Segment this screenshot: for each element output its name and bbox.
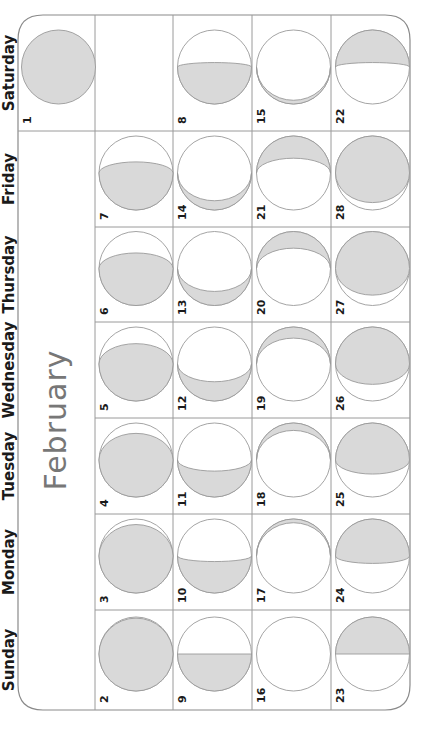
day-number: 13 — [176, 300, 189, 315]
day-cell-15: 15 — [255, 30, 331, 124]
day-number: 4 — [98, 499, 111, 507]
day-number: 5 — [98, 403, 111, 411]
day-number: 1 — [21, 116, 34, 124]
weekday-label-saturday: Saturday — [0, 35, 18, 112]
day-number: 24 — [334, 587, 347, 603]
day-cell-5: 5 — [98, 327, 173, 411]
weekday-label-friday: Friday — [0, 153, 18, 205]
day-cell-26: 26 — [334, 327, 410, 411]
day-number: 19 — [255, 396, 268, 411]
day-cell-13: 13 — [176, 232, 252, 316]
day-cell-16: 16 — [255, 617, 331, 703]
moon-shade-icon — [99, 525, 173, 593]
day-cell-2: 2 — [98, 617, 173, 703]
moon-shade-icon — [336, 423, 410, 474]
day-cell-27: 27 — [334, 232, 410, 316]
moon-shade-icon — [99, 253, 173, 306]
day-number: 9 — [176, 695, 189, 703]
day-cell-17: 17 — [255, 519, 331, 603]
weekday-label-monday: Monday — [0, 529, 18, 595]
day-number: 11 — [176, 492, 189, 507]
moon-shade-icon — [336, 136, 410, 203]
day-cell-23: 23 — [334, 617, 410, 703]
day-cell-1: 1 — [21, 30, 96, 124]
day-cell-11: 11 — [176, 423, 252, 507]
day-number: 15 — [255, 109, 268, 124]
weekday-label-wednesday: Wednesday — [0, 321, 18, 418]
day-cell-8: 8 — [176, 30, 252, 124]
day-number: 14 — [176, 204, 189, 220]
day-number: 8 — [176, 116, 189, 124]
day-number: 20 — [255, 299, 268, 315]
day-cell-20: 20 — [255, 232, 331, 316]
moon-shade-icon — [336, 232, 410, 296]
day-cell-9: 9 — [176, 617, 252, 703]
day-number: 18 — [255, 492, 268, 507]
moon-icon — [22, 30, 96, 104]
moon-shade-icon — [178, 654, 252, 691]
weekday-labels: SaturdayFridayThursdayWednesdayTuesdayMo… — [0, 35, 18, 692]
day-number: 21 — [255, 205, 268, 220]
weekday-label-thursday: Thursday — [0, 235, 18, 313]
moon-shade-icon — [336, 617, 410, 654]
day-cell-12: 12 — [176, 327, 252, 411]
moon-shade-icon — [99, 618, 173, 691]
day-cell-10: 10 — [176, 519, 252, 603]
day-cell-24: 24 — [334, 519, 410, 603]
moon-shade-icon — [178, 556, 252, 593]
day-cell-28: 28 — [334, 136, 410, 220]
moon-shade-icon — [99, 344, 173, 401]
moon-shade-icon — [99, 433, 173, 497]
day-cell-14: 14 — [176, 136, 252, 220]
day-cell-22: 22 — [334, 30, 410, 124]
moon-shade-icon — [336, 327, 410, 384]
day-number: 23 — [334, 688, 347, 703]
day-number: 16 — [255, 687, 268, 703]
day-number: 28 — [334, 205, 347, 220]
day-number: 2 — [98, 695, 111, 703]
day-cell-21: 21 — [255, 136, 331, 220]
moon-shade-icon — [336, 30, 410, 67]
day-number: 25 — [334, 492, 347, 507]
day-number: 10 — [176, 587, 189, 603]
day-number: 17 — [255, 588, 268, 603]
day-cell-3: 3 — [98, 519, 173, 603]
moon-icon — [257, 617, 331, 691]
day-cell-6: 6 — [98, 232, 173, 316]
day-cell-25: 25 — [334, 423, 410, 507]
day-number: 6 — [98, 307, 111, 315]
day-number: 26 — [334, 395, 347, 411]
month-title: February — [38, 350, 73, 491]
day-number: 7 — [98, 212, 111, 220]
day-cell-18: 18 — [255, 423, 331, 507]
day-number: 22 — [334, 109, 347, 124]
moon-shade-icon — [99, 162, 173, 210]
day-number: 27 — [334, 300, 347, 315]
day-cell-7: 7 — [98, 136, 173, 220]
day-number: 3 — [98, 595, 111, 603]
day-cell-4: 4 — [98, 423, 173, 507]
day-cell-19: 19 — [255, 327, 331, 411]
moon-shade-icon — [178, 63, 252, 104]
weekday-label-tuesday: Tuesday — [0, 432, 18, 501]
moon-shade-icon — [336, 519, 410, 563]
moon-calendar: SaturdayFridayThursdayWednesdayTuesdayMo… — [0, 0, 444, 741]
day-number: 12 — [176, 396, 189, 411]
weekday-label-sunday: Sunday — [0, 629, 18, 692]
